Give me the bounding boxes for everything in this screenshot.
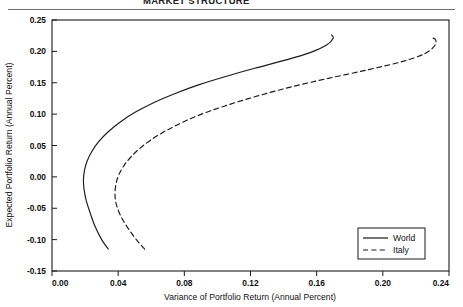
y-tick-label: -0.05 [27,203,46,213]
y-tick-label: 0.25 [30,15,47,25]
x-tick-label: 0.24 [433,278,450,288]
series-line-world [83,35,333,249]
running-head: MARKET STRUCTURE [143,0,250,6]
y-tick-label: -0.10 [27,235,46,245]
x-tick-label: 0.08 [176,278,193,288]
y-tick-label: 0.10 [30,109,47,119]
efficient-frontier-chart: 0.250.200.150.100.050.00-0.05-0.10-0.15 … [0,12,463,307]
data-series-group [83,35,436,249]
x-tick-label: 0.00 [52,278,69,288]
x-axis-ticks [52,271,449,276]
x-axis-tick-labels: 0.000.040.080.120.160.200.24 [52,278,449,288]
y-tick-label: 0.05 [30,141,47,151]
figure-root: MARKET STRUCTURE 0.250.200.150.100.050.0… [0,0,463,307]
y-axis-tick-labels: 0.250.200.150.100.050.00-0.05-0.10-0.15 [27,15,46,276]
legend-label-world: World [393,233,416,243]
y-tick-label: 0.00 [30,172,47,182]
x-tick-label: 0.04 [110,278,127,288]
y-axis-ticks [52,20,57,271]
chart-canvas: 0.250.200.150.100.050.00-0.05-0.10-0.15 … [0,12,463,307]
header-rule [8,9,455,10]
page-header: MARKET STRUCTURE [0,0,463,12]
legend-label-italy: Italy [393,245,409,255]
series-line-italy [115,37,436,249]
y-tick-label: 0.20 [30,46,47,56]
y-tick-label: -0.15 [27,266,46,276]
y-axis-title: Expected Portfolio Return (Annual Percen… [4,62,14,227]
y-tick-label: 0.15 [30,78,47,88]
x-tick-label: 0.20 [375,278,392,288]
chart-legend: WorldItaly [358,228,425,259]
x-tick-label: 0.16 [309,278,326,288]
x-tick-label: 0.12 [242,278,259,288]
x-axis-title: Variance of Portfolio Return (Annual Per… [164,292,336,302]
